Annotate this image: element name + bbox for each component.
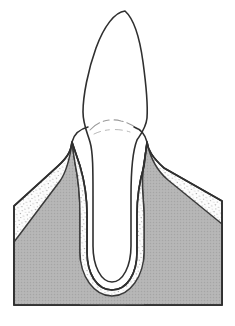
periodontal-cross-section-diagram: [0, 0, 235, 326]
illustration-figure: [0, 0, 235, 326]
